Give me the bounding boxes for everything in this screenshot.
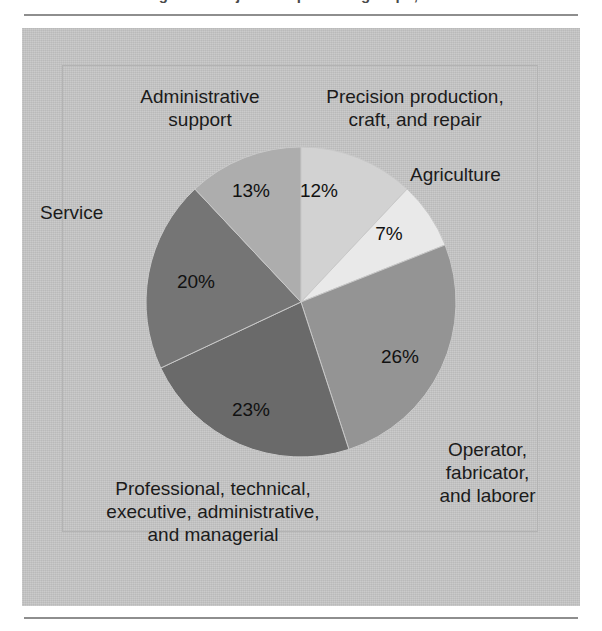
slice-value-agriculture: 7% [364, 224, 414, 244]
slice-value-professional-technical: 23% [221, 400, 281, 420]
slice-label-professional-technical: Professional, technical, executive, admi… [48, 477, 378, 546]
figure-root: Figure 1. Major occupational groups, 199… [0, 0, 602, 631]
slice-value-administrative-support: 13% [221, 181, 281, 201]
slice-label-administrative-support: Administrative support [95, 85, 305, 131]
figure-caption-fragment: Figure 1. Major occupational groups, 199… [0, 0, 602, 6]
rule-bottom [24, 617, 578, 619]
slice-label-precision-production: Precision production, craft, and repair [300, 85, 530, 131]
slice-value-service: 20% [166, 272, 226, 292]
rule-top [24, 14, 578, 16]
slice-value-precision-production: 12% [289, 181, 349, 201]
slice-label-operator-fabricator-laborer: Operator, fabricator, and laborer [395, 438, 580, 507]
slice-value-operator-fabricator-laborer: 26% [370, 347, 430, 367]
slice-label-agriculture: Agriculture [410, 163, 580, 186]
slice-label-service: Service [40, 201, 190, 224]
